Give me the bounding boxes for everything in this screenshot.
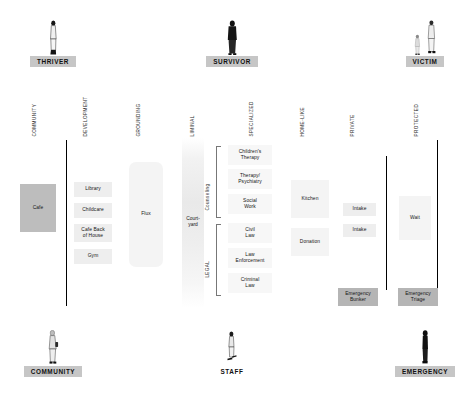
block-gym[interactable]: Gym: [74, 249, 112, 264]
block-civil-law[interactable]: CivilLaw: [228, 223, 272, 243]
victim-figures: [413, 18, 438, 56]
column-header-private: PRIVATE: [351, 114, 356, 136]
persona-community: COMMUNITY: [16, 328, 90, 377]
divider-left: [66, 140, 67, 306]
persona-victim: VICTIM: [388, 18, 462, 67]
block-wait[interactable]: Wait: [399, 196, 431, 240]
column-header-community: COMMUNITY: [33, 104, 38, 137]
block-cafe[interactable]: Cafe: [20, 184, 56, 232]
block-childrens-therapy[interactable]: Children'sTherapy: [228, 145, 272, 165]
divider-right-outer: [437, 140, 438, 306]
person-figure-icon: [225, 20, 240, 56]
persona-label-victim: VICTIM: [406, 56, 445, 67]
person-figure-icon: [425, 20, 438, 56]
staff-figures: [225, 328, 239, 366]
column-header-home-like: HOME-LIKE: [301, 107, 306, 137]
block-kitchen[interactable]: Kitchen: [291, 180, 329, 218]
persona-emergency: EMERGENCY: [388, 328, 462, 377]
person-figure-icon: [419, 330, 432, 366]
column-header-specialized: SPECIALIZED: [250, 101, 255, 136]
divider-right-inner: [386, 156, 387, 290]
block-law-enforcement[interactable]: LawEnforcement: [228, 248, 272, 268]
persona-label-survivor: SURVIVOR: [206, 56, 258, 67]
persona-thriver: THRIVER: [16, 18, 90, 67]
bracket-counseling: [216, 146, 221, 218]
block-intake-2[interactable]: Intake: [343, 224, 376, 237]
block-emergency-bunker[interactable]: EmergencyBunker: [338, 288, 378, 306]
block-intake-1[interactable]: Intake: [343, 203, 376, 216]
block-criminal-law[interactable]: CriminalLaw: [228, 273, 272, 293]
person-figure-icon: [47, 20, 60, 56]
thriver-figures: [47, 18, 60, 56]
diagram-canvas: THRIVER SURVIVOR: [0, 0, 462, 396]
community-figures: [46, 328, 60, 366]
block-social-work[interactable]: SocialWork: [228, 194, 272, 214]
survivor-figures: [225, 18, 240, 56]
persona-label-staff: STAFF: [221, 366, 244, 377]
block-therapy-psychiatry[interactable]: Therapy/Psychiatry: [228, 169, 272, 189]
persona-label-emergency: EMERGENCY: [395, 366, 455, 377]
bracket-label-legal: LEGAL: [206, 261, 211, 278]
persona-label-community: COMMUNITY: [24, 366, 82, 377]
bracket-legal: [216, 224, 221, 296]
column-header-development: DEVELOPMENT: [84, 96, 89, 136]
bracket-label-counseling: Counseling: [206, 184, 211, 211]
column-header-protected: PROTECTED: [415, 104, 420, 137]
persona-staff: STAFF: [195, 328, 269, 377]
persona-label-thriver: THRIVER: [30, 56, 76, 67]
child-figure-icon: [413, 34, 422, 56]
person-figure-icon: [46, 330, 60, 366]
column-header-liminal: LIMINAL: [191, 115, 196, 136]
block-cafe-back-of-house[interactable]: Cafe Backof House: [74, 224, 112, 242]
block-library[interactable]: Library: [74, 182, 112, 197]
block-childcare[interactable]: Childcare: [74, 203, 112, 218]
emergency-figures: [419, 328, 432, 366]
block-flux[interactable]: Flux: [129, 162, 163, 267]
block-emergency-triage[interactable]: EmergencyTriage: [398, 288, 438, 306]
person-figure-icon: [225, 330, 239, 366]
block-donation[interactable]: Donation: [291, 228, 329, 256]
persona-survivor: SURVIVOR: [195, 18, 269, 67]
block-courtyard: Court-yard: [180, 216, 206, 228]
column-header-grounding: GROUNDING: [137, 104, 142, 137]
